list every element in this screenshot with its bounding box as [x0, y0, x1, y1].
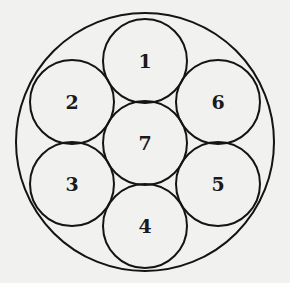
circle-4: 4	[103, 184, 187, 268]
circle-label: 3	[65, 173, 78, 195]
circle-1: 1	[103, 19, 187, 103]
inner-circles: 1234567	[30, 19, 260, 268]
circle-label: 2	[65, 91, 78, 113]
circle-6: 6	[176, 60, 260, 144]
circle-packing-diagram: 1234567	[0, 0, 290, 283]
circle-label: 1	[138, 50, 151, 72]
circle-5: 5	[176, 142, 260, 226]
circle-label: 4	[138, 215, 151, 237]
circle-2: 2	[30, 60, 114, 144]
circle-3: 3	[30, 142, 114, 226]
circle-label: 6	[211, 91, 224, 113]
circle-label: 7	[138, 132, 151, 154]
circle-7: 7	[103, 101, 187, 185]
circle-label: 5	[211, 173, 224, 195]
